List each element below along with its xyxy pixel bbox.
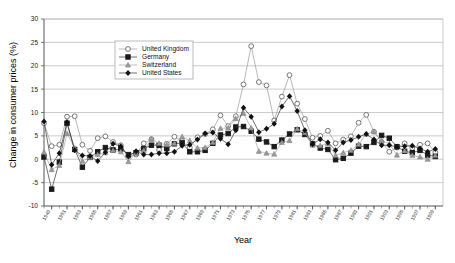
data-point — [348, 148, 353, 153]
legend-label: United States — [142, 69, 182, 76]
y-tick-label: 0 — [34, 156, 38, 163]
x-tick-label: 1971 — [210, 208, 221, 221]
data-point — [149, 152, 154, 158]
data-point — [180, 134, 185, 139]
data-point — [387, 136, 391, 140]
y-tick-label: 10 — [31, 109, 39, 116]
x-tick-label: 1973 — [225, 208, 236, 221]
y-tick-label: 5 — [34, 132, 38, 139]
data-point — [241, 82, 246, 87]
y-tick-label: -5 — [32, 179, 38, 186]
x-tick-label: 1951 — [56, 208, 67, 221]
data-point — [256, 149, 261, 154]
data-point — [225, 141, 230, 147]
data-point — [295, 101, 300, 106]
x-tick-labels: 1949195119531955195719591961196319651967… — [41, 208, 436, 221]
data-point — [326, 128, 331, 133]
data-point — [80, 142, 85, 147]
data-point — [257, 137, 261, 141]
data-point — [287, 132, 291, 136]
data-point — [425, 141, 430, 146]
x-tick-label: 1963 — [148, 208, 159, 221]
x-tick-label: 1975 — [240, 208, 251, 221]
y-tick-label: -10 — [29, 202, 39, 209]
data-point — [72, 114, 77, 119]
data-point — [88, 148, 93, 153]
x-tick-label: 1969 — [194, 208, 205, 221]
y-tick-label: 15 — [31, 86, 39, 93]
x-tick-label: 1983 — [302, 208, 313, 221]
data-point — [364, 112, 369, 117]
data-point — [49, 162, 54, 168]
legend-label: Switzerland — [142, 61, 176, 68]
data-point — [264, 126, 269, 132]
data-point — [387, 149, 392, 154]
x-tick-label: 1999 — [424, 208, 435, 221]
data-point — [226, 131, 230, 135]
data-point — [287, 73, 292, 78]
x-tick-label: 1993 — [378, 208, 389, 221]
legend-label: Germany — [142, 53, 170, 61]
y-tick-label: 20 — [31, 62, 39, 69]
data-point — [41, 150, 46, 155]
data-point — [126, 47, 131, 52]
data-point — [249, 44, 254, 49]
x-tick-label: 1985 — [317, 208, 328, 221]
data-point — [264, 140, 268, 144]
x-tick-label: 1987 — [332, 208, 343, 221]
data-point — [103, 134, 108, 139]
series-line — [44, 123, 435, 189]
x-tick-label: 1957 — [102, 208, 113, 221]
data-point — [241, 124, 245, 128]
chart-canvas: -10-5051015202530 1949195119531955195719… — [0, 0, 455, 263]
data-point — [256, 129, 261, 135]
x-tick-label: 1955 — [87, 208, 98, 221]
x-tick-label: 1991 — [363, 208, 374, 221]
data-point — [103, 145, 107, 149]
y-tick-labels: -10-5051015202530 — [29, 15, 39, 209]
x-tick-label: 1997 — [409, 208, 420, 221]
data-point — [188, 150, 192, 154]
data-point — [126, 55, 130, 59]
data-point — [172, 149, 177, 155]
y-tick-label: 25 — [31, 39, 39, 46]
data-point — [49, 187, 53, 191]
x-tick-label: 1989 — [348, 208, 359, 221]
x-tick-label: 1979 — [271, 208, 282, 221]
x-tick-label: 1995 — [394, 208, 405, 221]
x-tick-label: 1953 — [71, 208, 82, 221]
data-point — [356, 134, 361, 140]
data-point — [379, 133, 383, 137]
x-tick-label: 1959 — [118, 208, 129, 221]
data-point — [49, 144, 54, 149]
y-tick-label: 30 — [31, 15, 39, 22]
data-point — [341, 156, 345, 160]
data-point — [172, 134, 177, 139]
data-point — [249, 125, 254, 130]
data-point — [333, 158, 337, 162]
data-point — [95, 136, 100, 141]
chart-figure: -10-5051015202530 1949195119531955195719… — [0, 0, 455, 263]
chart-legend: United KingdomGermanySwitzerlandUnited S… — [115, 41, 193, 79]
data-point — [356, 120, 361, 125]
data-point — [302, 117, 307, 122]
x-tick-label: 1961 — [133, 208, 144, 221]
data-point — [394, 152, 399, 157]
x-axis-title: Year — [234, 235, 252, 245]
x-tick-label: 1981 — [286, 208, 297, 221]
data-point — [141, 141, 146, 146]
data-point — [310, 135, 315, 140]
legend-label: United Kingdom — [142, 45, 189, 53]
series-germany — [42, 121, 438, 191]
x-tick-label: 1965 — [164, 208, 175, 221]
data-point — [203, 145, 208, 150]
data-point — [287, 138, 292, 143]
data-point — [272, 144, 276, 148]
x-tick-label: 1967 — [179, 208, 190, 221]
data-point — [295, 108, 300, 114]
data-point — [333, 141, 338, 146]
data-point — [80, 165, 84, 169]
x-tick-label: 1977 — [256, 208, 267, 221]
series-united-states — [41, 93, 438, 168]
x-tick-label: 1949 — [41, 208, 52, 221]
